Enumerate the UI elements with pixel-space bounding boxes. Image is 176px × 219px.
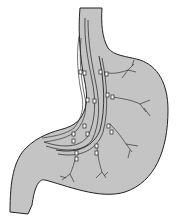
clip	[75, 157, 78, 161]
clip	[95, 144, 98, 148]
clip	[86, 98, 89, 102]
clip	[107, 124, 110, 128]
clip	[111, 95, 114, 99]
clip	[75, 151, 78, 155]
clip	[99, 70, 102, 74]
illustration-canvas	[0, 0, 176, 219]
nerve-of-latarjet-2	[44, 38, 86, 142]
clip	[83, 124, 86, 128]
clip	[93, 99, 96, 103]
clip	[110, 130, 113, 134]
clip	[86, 132, 89, 136]
clip	[72, 139, 75, 143]
clip	[106, 93, 109, 97]
clip	[95, 151, 98, 155]
clip	[83, 71, 86, 75]
clip	[72, 132, 75, 136]
clip	[105, 72, 108, 76]
stomach-illustration	[0, 0, 176, 219]
clip	[79, 70, 82, 74]
